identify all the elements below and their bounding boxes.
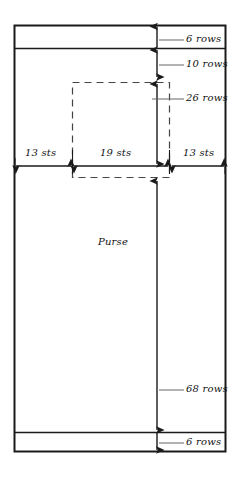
label-flap-depth: 26 rows bbox=[186, 92, 228, 103]
label-bottom-band: 6 rows bbox=[186, 436, 221, 447]
schematic-diagram: 6 rows 10 rows 26 rows 68 rows 6 rows 13… bbox=[0, 0, 241, 479]
label-right-side: 13 sts bbox=[183, 147, 214, 158]
label-left-side: 13 sts bbox=[25, 147, 56, 158]
label-body-depth: 68 rows bbox=[186, 383, 228, 394]
label-center: 19 sts bbox=[100, 147, 131, 158]
label-top-band: 6 rows bbox=[186, 33, 221, 44]
label-purse-body: Purse bbox=[98, 236, 128, 247]
label-upper-gap: 10 rows bbox=[186, 58, 228, 69]
